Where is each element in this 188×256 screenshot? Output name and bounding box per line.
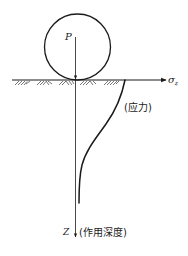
wheel-circle — [45, 14, 111, 80]
depth-axis-description: (作用深度) — [79, 228, 127, 238]
sigma-axis-label: σz — [168, 75, 178, 86]
load-label: P — [65, 32, 72, 42]
ground-hatch — [15, 81, 119, 85]
diagram-canvas — [0, 0, 188, 256]
stress-curve — [79, 80, 125, 203]
stress-curve-label: (应力) — [124, 103, 152, 113]
sigma-subscript: z — [175, 79, 178, 86]
depth-axis-symbol: Z — [63, 228, 69, 237]
sigma-symbol: σ — [168, 74, 175, 85]
